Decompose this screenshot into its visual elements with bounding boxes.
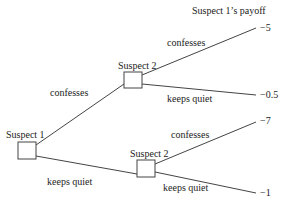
node-suspect1: [18, 142, 36, 159]
payoff-confess-quiet: −0.5: [260, 89, 278, 100]
payoff-header: Suspect 1’s payoff: [192, 5, 266, 16]
node-suspect2-upper: [124, 72, 142, 88]
node-suspect2-lower: [137, 160, 155, 177]
node-suspect2-upper-label: Suspect 2: [118, 60, 157, 71]
payoff-confess-confess: −5: [260, 22, 271, 33]
edge-label-upper-keeps-quiet: keeps quiet: [167, 93, 212, 104]
edge-root-keeps-quiet: [36, 156, 137, 174]
node-suspect2-lower-label: Suspect 2: [130, 148, 169, 159]
edge-label-upper-confesses: confesses: [167, 37, 205, 48]
payoff-quiet-quiet: −1: [260, 187, 271, 198]
edge-upper-confesses: [142, 28, 256, 75]
game-tree: Suspect 1 Suspect 2 Suspect 2 confesses …: [0, 0, 296, 208]
edge-label-root-keeps-quiet: keeps quiet: [47, 176, 92, 187]
node-suspect1-label: Suspect 1: [6, 129, 45, 140]
payoff-quiet-confess: −7: [260, 115, 271, 126]
edge-label-lower-keeps-quiet: keeps quiet: [163, 182, 208, 193]
edge-label-root-confesses: confesses: [50, 87, 88, 98]
edge-label-lower-confesses: confesses: [171, 129, 209, 140]
